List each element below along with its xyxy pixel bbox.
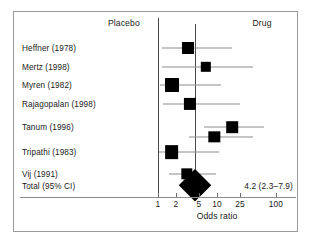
- x-axis-tick-label: 25: [235, 199, 245, 209]
- x-axis-tick-label: 2: [174, 199, 179, 209]
- forest-plot-figure: PlaceboDrugHeffner (1978)Mertz (1998)Myr…: [0, 0, 313, 242]
- study-label: Heffner (1978): [22, 44, 76, 53]
- study-label: Vij (1991): [22, 170, 58, 179]
- study-label: Mertz (1998): [22, 63, 70, 72]
- point-estimate-marker: [201, 62, 211, 72]
- plot-area: PlaceboDrugHeffner (1978)Mertz (1998)Myr…: [0, 0, 313, 242]
- study-label: Tripathi (1983): [22, 148, 76, 157]
- header-label-placebo: Placebo: [108, 18, 140, 28]
- point-estimate-marker: [182, 42, 194, 54]
- x-axis-tick: [276, 193, 277, 197]
- study-label: Tanum (1996): [22, 123, 74, 132]
- total-label: Total (95% CI): [22, 182, 75, 191]
- study-label: Rajagopalan (1998): [22, 100, 96, 109]
- x-axis-tick: [199, 193, 200, 197]
- point-estimate-marker: [165, 78, 179, 92]
- x-axis-line: [20, 197, 296, 198]
- point-estimate-marker: [165, 145, 179, 159]
- study-label: Myren (1982): [22, 81, 72, 90]
- reference-line-null-effect: [158, 18, 159, 197]
- point-estimate-marker: [209, 131, 220, 142]
- header-label-drug: Drug: [252, 18, 271, 28]
- x-axis-tick: [176, 193, 177, 197]
- x-axis-tick-label: 100: [269, 199, 283, 209]
- x-axis-tick-label: 1: [156, 199, 161, 209]
- point-estimate-marker: [226, 121, 238, 133]
- x-axis-tick: [240, 193, 241, 197]
- x-axis-tick-label: 10: [212, 199, 222, 209]
- x-axis-tick: [158, 193, 159, 197]
- point-estimate-marker: [184, 98, 196, 110]
- x-axis-tick: [217, 193, 218, 197]
- confidence-interval-bar: [162, 48, 232, 49]
- x-axis-tick-label: 5: [197, 199, 202, 209]
- x-axis-title: Odds ratio: [197, 211, 238, 221]
- confidence-interval-bar: [189, 137, 253, 138]
- total-value: 4.2 (2.3–7.9): [244, 181, 293, 191]
- confidence-interval-bar: [163, 104, 241, 105]
